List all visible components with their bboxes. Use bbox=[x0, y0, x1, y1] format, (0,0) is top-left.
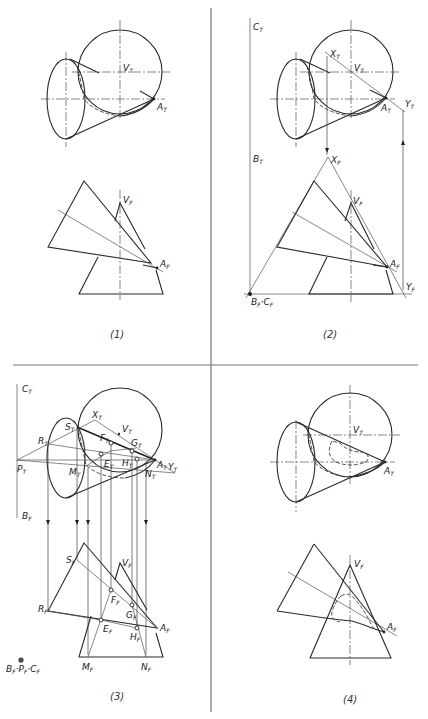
label-bf-cf: BF·CF bbox=[251, 297, 274, 308]
panel-1-top-view: VT AT bbox=[41, 20, 170, 147]
label-at: AT bbox=[156, 102, 168, 113]
panel-2-front-view: XF VF AF YF BF·CF bbox=[244, 155, 416, 308]
intersection-curve-top bbox=[329, 441, 368, 465]
label-st: ST bbox=[65, 422, 76, 433]
caption-1: (1) bbox=[110, 329, 124, 340]
point-hf bbox=[135, 626, 139, 630]
projection-line-bx bbox=[246, 157, 328, 298]
label-hf: HF bbox=[130, 632, 141, 643]
label-vf: VF bbox=[354, 559, 364, 570]
label-bf-pf-cf: BF·PF·CF bbox=[6, 664, 41, 675]
auxiliary-line-xy bbox=[325, 52, 405, 112]
label-nt: NT bbox=[145, 469, 157, 480]
caption-2: (2) bbox=[323, 329, 337, 340]
label-sf: SF bbox=[66, 555, 76, 566]
caption-4: (4) bbox=[343, 694, 357, 705]
panel-1: VT AT VF AF (1) bbox=[41, 20, 170, 340]
panel-2: XT VT AT YT CT BT XF VF AF YF BF·CF (2) bbox=[244, 18, 416, 340]
label-af: AF bbox=[389, 259, 400, 270]
point-ft bbox=[109, 441, 113, 445]
point-ht bbox=[135, 457, 139, 461]
panel-4-front-view: VF AF bbox=[277, 544, 397, 665]
label-at: AT bbox=[380, 103, 392, 114]
label-xt: XT bbox=[91, 410, 103, 421]
label-vf: VF bbox=[122, 558, 132, 569]
label-bt: BT bbox=[253, 154, 264, 165]
label-vt: VT bbox=[123, 63, 134, 74]
point-gt bbox=[130, 449, 134, 453]
point-ef bbox=[99, 618, 103, 622]
label-af: AF bbox=[159, 259, 170, 270]
label-bf: BF bbox=[22, 511, 32, 522]
label-ft: FT bbox=[100, 433, 110, 444]
label-mt: MT bbox=[69, 467, 82, 478]
prism-triangle bbox=[48, 181, 151, 263]
label-ct: CT bbox=[253, 22, 264, 33]
panel-4-top-view: VT AT bbox=[270, 385, 400, 512]
label-nf: NF bbox=[141, 662, 152, 673]
label-at: AT bbox=[383, 466, 395, 477]
label-gf: GF bbox=[126, 610, 137, 621]
label-gt: GT bbox=[131, 438, 143, 449]
panel-1-front-view: VF AF bbox=[48, 181, 170, 300]
label-yf: YF bbox=[406, 282, 416, 293]
caption-3: (3) bbox=[110, 691, 124, 702]
label-vf: VF bbox=[123, 195, 133, 206]
label-rf: RF bbox=[38, 604, 48, 615]
label-xf: XF bbox=[330, 155, 341, 166]
label-mf: MF bbox=[82, 662, 94, 673]
label-rt: RT bbox=[38, 436, 49, 447]
construction-drawing: VT AT VF AF (1) bbox=[0, 0, 428, 719]
label-at: AT bbox=[156, 460, 168, 471]
panel-4: VT AT VF AF (4) bbox=[270, 385, 400, 705]
label-vt: VT bbox=[353, 425, 364, 436]
point-et bbox=[99, 452, 103, 456]
label-ff: FF bbox=[111, 595, 120, 606]
label-ef: EF bbox=[103, 624, 113, 635]
panel-3: CT XT ST VT RT FT GT ET HT AT YT PT MT N… bbox=[6, 384, 179, 702]
point-gf bbox=[130, 603, 134, 607]
label-af: AF bbox=[159, 623, 170, 634]
label-vt: VT bbox=[354, 63, 365, 74]
label-pt: PT bbox=[17, 464, 27, 475]
label-xt: XT bbox=[329, 49, 341, 60]
label-vt: VT bbox=[122, 424, 133, 435]
label-yt: YT bbox=[168, 462, 179, 473]
label-yt: YT bbox=[405, 99, 416, 110]
label-ct: CT bbox=[22, 384, 33, 395]
point-ff bbox=[109, 588, 113, 592]
label-af: AF bbox=[386, 622, 397, 633]
panel-3-top-view: CT XT ST VT RT FT GT ET HT AT YT PT MT N… bbox=[17, 384, 179, 655]
label-vf: VF bbox=[353, 196, 363, 207]
label-et: ET bbox=[104, 459, 115, 470]
